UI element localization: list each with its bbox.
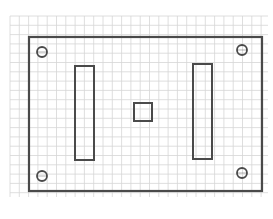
plate-outline [29,37,262,191]
plate-sketch [0,0,273,219]
hole-bottom-right [237,168,247,178]
slots [75,64,212,160]
graph-paper-grid [10,16,268,197]
diagram-canvas [0,0,273,219]
mounting-holes [37,45,247,181]
hole-bottom-left [37,171,47,181]
hole-top-left [37,47,47,57]
